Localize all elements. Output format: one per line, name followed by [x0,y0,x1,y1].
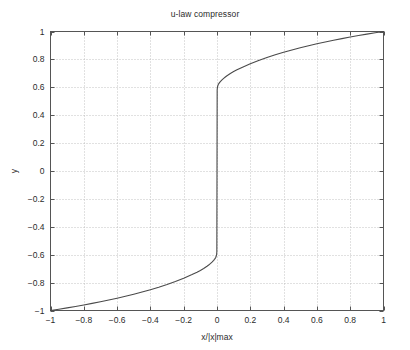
y-tick-label: −0.4 [28,222,45,232]
y-tick-label: 0.2 [33,138,45,148]
y-tick-label: 1 [40,27,45,37]
y-tick-label: −0.8 [28,278,45,288]
y-tick-label: −0.6 [28,250,45,260]
y-tick-label: 0.4 [33,110,45,120]
x-tick-label: 0.6 [311,315,323,325]
y-tick-labels: −1−0.8−0.6−0.4−0.200.20.40.60.81 [28,27,45,316]
y-tick-label: 0.6 [33,82,45,92]
plot-canvas: −1−0.8−0.6−0.4−0.200.20.40.60.81 −1−0.8−… [0,0,410,350]
x-tick-label: 0.2 [244,315,256,325]
x-tick-label: 1 [381,315,386,325]
x-tick-label: 0.8 [344,315,356,325]
x-tick-label: −1 [46,315,56,325]
x-tick-label: −0.4 [142,315,159,325]
x-tick-label: 0 [215,315,220,325]
mu-law-curve [51,32,384,311]
x-tick-label: −0.8 [75,315,92,325]
y-tick-label: 0 [40,166,45,176]
x-tick-labels: −1−0.8−0.6−0.4−0.200.20.40.60.81 [46,315,386,325]
x-tick-label: −0.6 [109,315,126,325]
figure-container: u-law compressor −1−0.8−0.6−0.4−0.200.20… [0,0,410,350]
y-axis-label: y [9,168,19,173]
y-tick-label: 0.8 [33,54,45,64]
x-tick-label: −0.2 [175,315,192,325]
y-tick-label: −0.2 [28,194,45,204]
x-axis-label: x/|x|max [201,332,233,342]
y-tick-label: −1 [35,306,45,316]
x-tick-label: 0.4 [278,315,290,325]
